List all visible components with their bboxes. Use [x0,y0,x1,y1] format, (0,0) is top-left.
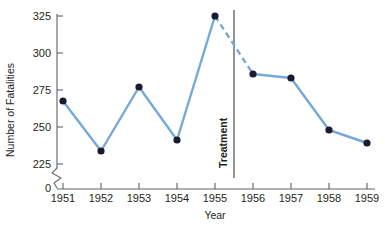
x-tick-label-1958: 1958 [317,192,341,204]
x-tick-label-1953: 1953 [127,192,151,204]
line-chart-figure: Number of Fatalities 325 300 275 250 225… [0,0,385,226]
data-point-1951 [59,97,66,104]
data-point-1956 [249,70,256,77]
x-axis-title: Year [204,209,226,221]
data-point-1952 [97,147,104,154]
y-axis-break-icon [52,168,61,188]
x-tick-label-1957: 1957 [279,192,303,204]
data-point-1955 [211,12,218,19]
data-point-1959 [363,139,370,146]
x-tick-label-1955: 1955 [203,192,227,204]
y-tick-label-225: 225 [33,158,51,170]
y-axis-title: Number of Fatalities [4,63,16,157]
x-tick-label-1959: 1959 [355,192,379,204]
y-tick-label-250: 250 [33,121,51,133]
y-tick-label-325: 325 [33,10,51,22]
x-tick-label-1954: 1954 [165,192,189,204]
x-tick-label-1951: 1951 [51,192,75,204]
post-treatment-line [253,74,367,143]
y-tick-label-300: 300 [33,47,51,59]
data-point-1953 [135,83,142,90]
data-point-1958 [325,126,332,133]
data-point-1954 [173,136,180,143]
chart-canvas: Number of Fatalities 325 300 275 250 225… [0,0,385,226]
y-tick-label-275: 275 [33,84,51,96]
data-point-1957 [287,74,294,81]
x-tick-label-1956: 1956 [241,192,265,204]
treatment-label: Treatment [217,117,229,168]
x-tick-label-1952: 1952 [89,192,113,204]
